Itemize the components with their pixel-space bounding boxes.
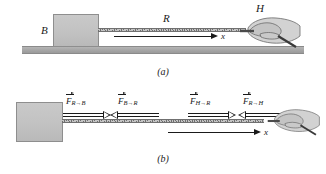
force-arrow-h-to-r xyxy=(188,111,236,120)
block-b-label: B xyxy=(41,25,48,36)
x-axis-label-a: x xyxy=(221,32,225,41)
rope-r-label: R xyxy=(163,13,170,24)
hand-icon-b xyxy=(266,105,326,137)
panel-a: B R H x (a) xyxy=(0,0,326,87)
force-label-r-to-b: FR→B xyxy=(66,97,85,107)
panel-a-caption: (a) xyxy=(0,66,326,77)
block-b xyxy=(53,14,99,47)
x-axis-arrow-a xyxy=(114,33,218,40)
physics-figure: B R H x (a) xyxy=(0,0,326,174)
force-label-h-to-r: FH→R xyxy=(190,97,210,107)
hand-h-label: H xyxy=(256,3,264,14)
panel-b: FR→B FB→R FH→R FR→H xyxy=(0,87,326,174)
panel-b-caption: (b) xyxy=(0,153,326,164)
x-axis-label-b: x xyxy=(264,128,268,137)
force-label-r-to-h: FR→H xyxy=(243,97,263,107)
hand-icon-a xyxy=(238,14,310,48)
x-axis-arrow-b xyxy=(168,129,261,136)
force-label-b-to-r: FB→R xyxy=(118,97,137,107)
block-b-panel-b xyxy=(16,102,63,142)
force-arrow-b-to-r xyxy=(110,111,160,120)
force-arrow-r-to-b xyxy=(63,111,111,120)
